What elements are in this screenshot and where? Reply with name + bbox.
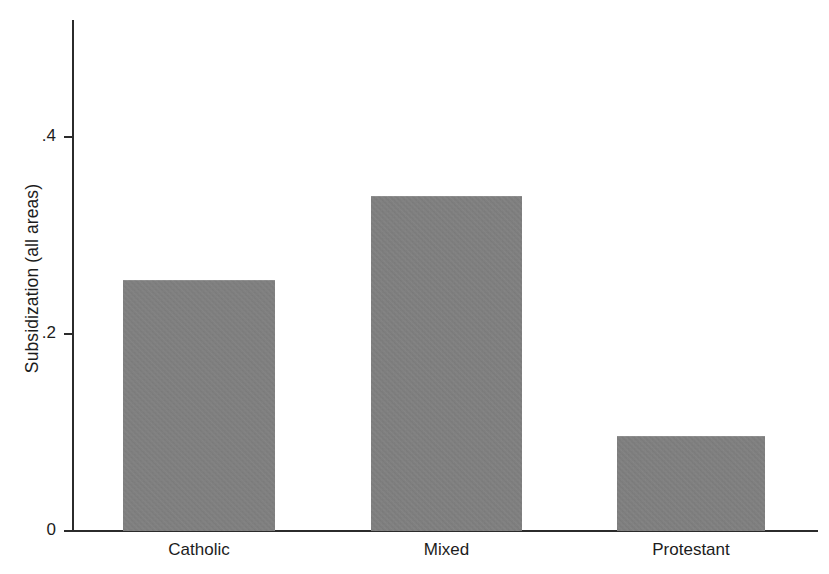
- bar-mixed[interactable]: [371, 196, 522, 531]
- bar-catholic[interactable]: [123, 280, 275, 531]
- plot-area: [0, 0, 829, 574]
- bar-protestant[interactable]: [617, 436, 765, 531]
- x-axis-label-catholic: Catholic: [99, 540, 299, 560]
- bar-chart: Subsidization (all areas) .4.20 Catholic…: [0, 0, 829, 574]
- x-axis-label-protestant: Protestant: [591, 540, 791, 560]
- x-axis-label-mixed: Mixed: [347, 540, 547, 560]
